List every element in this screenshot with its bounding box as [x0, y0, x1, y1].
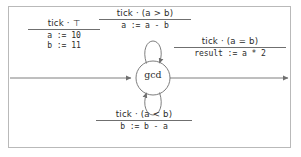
state-label-gcd: gcd	[136, 69, 170, 80]
transition-guard-init: tick · ⊤	[28, 18, 100, 30]
diagram-canvas: gcd tick · ⊤ a := 10 b := 11 tick · (a >…	[0, 0, 301, 157]
transition-action-decrement-a: a := a - b	[99, 20, 191, 31]
transition-action-init-2: b := 11	[28, 41, 100, 51]
transition-action-result: result := a * 2	[174, 48, 286, 59]
transition-label-decrement-a: tick · (a > b) a := a - b	[99, 8, 191, 31]
transition-guard-decrement-b: tick · (a < b)	[96, 109, 192, 121]
transition-guard-result: tick · (a = b)	[174, 36, 286, 48]
transition-label-decrement-b: tick · (a < b) b := b - a	[96, 109, 192, 132]
transition-action-decrement-b: b := b - a	[96, 121, 192, 132]
transition-label-result: tick · (a = b) result := a * 2	[174, 36, 286, 59]
transition-arrow-decrement-a	[145, 41, 161, 64]
transition-label-init: tick · ⊤ a := 10 b := 11	[28, 18, 100, 50]
transition-guard-decrement-a: tick · (a > b)	[99, 8, 191, 20]
